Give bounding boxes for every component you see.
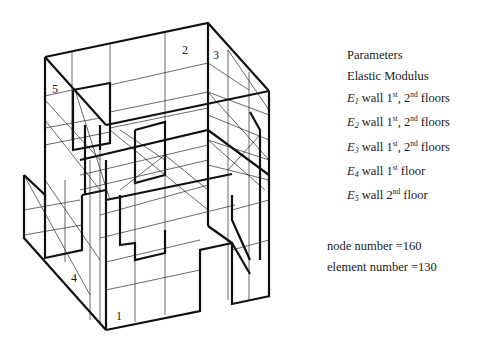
wall-label-2: 2 — [182, 43, 188, 57]
wall-outlines — [24, 23, 270, 330]
subscript: 5 — [355, 194, 359, 203]
sup: nd — [410, 114, 418, 123]
text: , 2 — [398, 140, 411, 154]
legend-item-e1: E1 wall 1st, 2nd floors — [347, 88, 450, 112]
node-number: node number =160 — [327, 236, 437, 257]
model-stats: node number =160 element number =130 — [327, 236, 437, 278]
symbol: E — [347, 188, 355, 202]
subscript: 1 — [355, 97, 359, 106]
legend-subtitle: Elastic Modulus — [347, 66, 450, 87]
text: floor — [398, 164, 425, 178]
text: floors — [418, 140, 450, 154]
wall-label-3: 3 — [213, 48, 219, 62]
text: , 2 — [398, 115, 411, 129]
element-number: element number =130 — [327, 257, 437, 278]
text: wall 1 — [362, 91, 393, 105]
legend-item-e3: E3 wall 1st, 2nd floors — [347, 137, 450, 161]
legend-title: Parameters — [347, 45, 450, 66]
wall-label-1: 1 — [116, 309, 122, 323]
text: wall 1 — [362, 115, 393, 129]
wall-label-5: 5 — [52, 82, 58, 96]
legend-item-e5: E5 wall 2nd floor — [347, 185, 450, 209]
subscript: 4 — [355, 170, 359, 179]
parameters-legend: Parameters Elastic Modulus E1 wall 1st, … — [347, 45, 450, 210]
text: , 2 — [398, 91, 411, 105]
subscript: 3 — [355, 146, 359, 155]
text: wall 2 — [362, 188, 393, 202]
symbol: E — [347, 91, 355, 105]
symbol: E — [347, 140, 355, 154]
subscript: 2 — [355, 121, 359, 130]
sup: nd — [410, 139, 418, 148]
legend-item-e2: E2 wall 1st, 2nd floors — [347, 112, 450, 136]
text: wall 1 — [362, 164, 393, 178]
wall-label-4: 4 — [71, 271, 77, 285]
text: floor — [400, 188, 427, 202]
text: floors — [418, 115, 450, 129]
text: floors — [418, 91, 450, 105]
text: wall 1 — [362, 140, 393, 154]
sup: nd — [410, 90, 418, 99]
legend-item-e4: E4 wall 1st floor — [347, 161, 450, 185]
symbol: E — [347, 164, 355, 178]
symbol: E — [347, 115, 355, 129]
